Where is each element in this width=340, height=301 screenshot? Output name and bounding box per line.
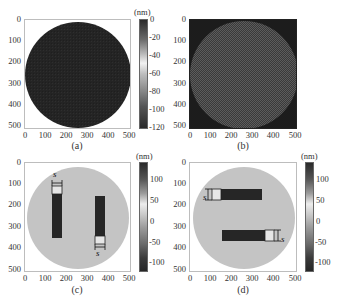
b-ytick-200: 200 — [166, 57, 186, 66]
d-cbar-tick-0: 0 — [316, 217, 320, 226]
b-ytick-0: 0 — [166, 15, 186, 24]
d-s-label-right: s — [281, 234, 285, 244]
b-xtick-300: 300 — [242, 131, 262, 140]
a-xtick-400: 400 — [98, 131, 118, 140]
a-ytick-300: 300 — [1, 79, 21, 88]
b-ytick-100: 100 — [166, 36, 186, 45]
a-xtick-100: 100 — [35, 131, 55, 140]
d-xtick-100: 100 — [200, 274, 220, 283]
panel-c-label: (c) — [62, 284, 92, 295]
panel-c-image — [25, 163, 131, 272]
a-xtick-200: 200 — [56, 131, 76, 140]
d-xtick-300: 300 — [242, 274, 262, 283]
d-cbar-tick-100: 100 — [316, 175, 329, 184]
a-cbar-tick-1: -20 — [149, 33, 160, 42]
c-s-label-bottom: s — [96, 248, 100, 258]
panel-a-label: (a) — [62, 140, 92, 151]
c-xtick-200: 200 — [56, 274, 76, 283]
b-xtick-500: 500 — [285, 131, 305, 140]
c-ytick-400: 400 — [1, 243, 21, 252]
d-cbar-tick-neg50: -50 — [315, 238, 326, 247]
c-xtick-400: 400 — [98, 274, 118, 283]
a-xtick-300: 300 — [77, 131, 97, 140]
c-ytick-100: 100 — [1, 179, 21, 188]
d-ytick-300: 300 — [166, 222, 186, 231]
d-colorbar-unit: (nm) — [301, 151, 318, 161]
b-ytick-400: 400 — [166, 100, 186, 109]
a-xtick-0: 0 — [15, 131, 35, 140]
a-xtick-500: 500 — [119, 131, 139, 140]
a-cbar-tick-6: -120 — [149, 123, 165, 132]
b-xtick-0: 0 — [180, 131, 200, 140]
d-colorbar — [305, 162, 314, 272]
b-xtick-200: 200 — [221, 131, 241, 140]
c-ytick-200: 200 — [1, 200, 21, 209]
panel-b-image — [190, 20, 297, 129]
d-ytick-400: 400 — [166, 243, 186, 252]
a-cbar-tick-4: -80 — [149, 87, 160, 96]
panel-a-image — [25, 20, 131, 129]
c-cbar-tick-neg50: -50 — [149, 238, 160, 247]
c-ytick-0: 0 — [1, 158, 21, 167]
b-xtick-400: 400 — [263, 131, 283, 140]
d-xtick-200: 200 — [221, 274, 241, 283]
a-ytick-200: 200 — [1, 57, 21, 66]
c-cbar-tick-neg100: -100 — [149, 258, 165, 267]
c-xtick-0: 0 — [15, 274, 35, 283]
c-cbar-tick-50: 50 — [150, 196, 159, 205]
c-cbar-tick-0: 0 — [150, 217, 154, 226]
panel-d-image — [190, 163, 297, 272]
d-ytick-200: 200 — [166, 200, 186, 209]
d-cbar-tick-neg100: -100 — [315, 258, 331, 267]
d-ytick-0: 0 — [166, 158, 186, 167]
a-cbar-tick-2: -40 — [149, 51, 160, 60]
c-ytick-500: 500 — [1, 265, 21, 274]
b-xtick-100: 100 — [200, 131, 220, 140]
d-xtick-0: 0 — [180, 274, 200, 283]
d-xtick-500: 500 — [285, 274, 305, 283]
a-colorbar-unit: (nm) — [134, 7, 151, 17]
c-s-label-top: s — [53, 169, 57, 179]
panel-d-plot — [189, 162, 297, 272]
c-ytick-300: 300 — [1, 222, 21, 231]
panel-c-plot — [24, 162, 131, 272]
a-ytick-500: 500 — [1, 121, 21, 130]
c-colorbar-unit: (nm) — [136, 151, 153, 161]
panel-a-plot — [24, 19, 131, 129]
a-cbar-tick-0: 0 — [150, 15, 154, 24]
b-ytick-300: 300 — [166, 79, 186, 88]
panel-b-plot — [189, 19, 297, 129]
a-ytick-0: 0 — [1, 15, 21, 24]
a-ytick-100: 100 — [1, 36, 21, 45]
d-ytick-500: 500 — [166, 265, 186, 274]
b-ytick-500: 500 — [166, 121, 186, 130]
panel-d-label: (d) — [228, 284, 258, 295]
c-xtick-100: 100 — [35, 274, 55, 283]
panel-b-label: (b) — [228, 140, 258, 151]
d-s-label-left: s — [203, 192, 207, 202]
c-xtick-300: 300 — [77, 274, 97, 283]
a-cbar-tick-3: -60 — [149, 69, 160, 78]
c-xtick-500: 500 — [119, 274, 139, 283]
a-ytick-400: 400 — [1, 100, 21, 109]
d-xtick-400: 400 — [263, 274, 283, 283]
d-ytick-100: 100 — [166, 179, 186, 188]
a-colorbar — [139, 19, 148, 129]
a-cbar-tick-5: -100 — [149, 105, 165, 114]
c-cbar-tick-100: 100 — [150, 175, 163, 184]
d-cbar-tick-50: 50 — [316, 196, 325, 205]
c-colorbar — [139, 162, 148, 272]
